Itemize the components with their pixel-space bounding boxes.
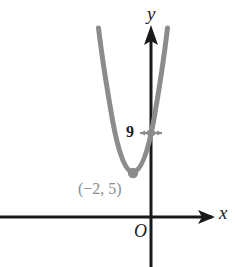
vertex-coordinate-label: (−2, 5) bbox=[78, 181, 122, 197]
y-intercept-value-label: 9 bbox=[126, 124, 134, 140]
parabola-curve bbox=[99, 28, 168, 172]
y-intercept-marker bbox=[140, 128, 162, 139]
x-axis-label: x bbox=[219, 203, 227, 222]
y-axis-label: y bbox=[147, 4, 155, 23]
vertex-point-marker bbox=[128, 168, 138, 178]
graph-figure: y x O 9 (−2, 5) bbox=[0, 0, 235, 267]
coordinate-plot bbox=[0, 0, 235, 267]
origin-label: O bbox=[134, 222, 147, 240]
